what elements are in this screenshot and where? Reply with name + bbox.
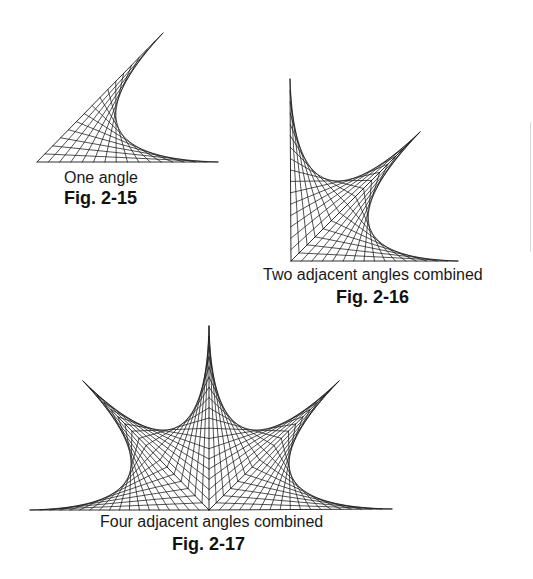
fig-2-16-caption: Two adjacent angles combined xyxy=(263,266,483,283)
figure-2-17-four-angles-string-art xyxy=(30,326,392,510)
fig-2-17-label: Fig. 2-17 xyxy=(172,535,245,553)
fig-2-16-label: Fig. 2-16 xyxy=(336,288,409,306)
fig-2-17-caption: Four adjacent angles combined xyxy=(100,513,323,530)
figure-2-16-two-angles-string-art xyxy=(290,79,458,261)
figure-2-15-one-angle-string-art xyxy=(37,33,218,162)
fig-2-15-caption: One angle xyxy=(64,169,138,186)
fig-2-15-label: Fig. 2-15 xyxy=(64,189,137,207)
page-edge-line xyxy=(530,122,531,252)
string-art-canvas xyxy=(0,0,533,579)
